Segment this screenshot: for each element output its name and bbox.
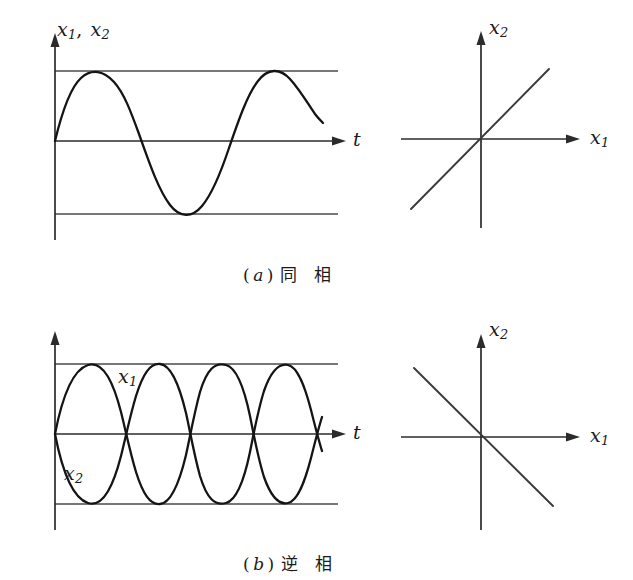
panel-b-caption-text: 逆 相: [281, 554, 338, 574]
panel-a-time-axis-arrow-icon: [332, 137, 346, 146]
panel-b-wave-label-x2-sub: 2: [75, 471, 83, 486]
panel-b-time-plot: [51, 331, 347, 530]
panel-a-lissajous-y-label-sub: 2: [500, 25, 508, 40]
panel-b-caption-paren-close: ): [268, 554, 275, 574]
panel-b-time-axis-label: t: [353, 423, 361, 442]
panel-b-wave-label-x1: x1: [118, 367, 137, 389]
panel-b-lissajous-horizontal-arrow-icon: [566, 433, 580, 442]
panel-a-lissajous-plot: [401, 31, 580, 228]
panel-b-wave-label-x1-base: x: [118, 365, 129, 387]
panel-a-y-axis-label-x1: x: [57, 18, 68, 40]
panel-a-lissajous-x-label: x1: [590, 128, 609, 150]
panel-a-waveform-x1-x2: [55, 71, 323, 215]
panel-b-lissajous-plot: [401, 334, 580, 530]
panel-b-wave-label-x1-sub: 1: [129, 374, 137, 389]
panel-b-wave-label-x2-base: x: [64, 462, 75, 484]
panel-b-lissajous-x-label-base: x: [590, 424, 601, 446]
panel-a-lissajous-x-label-base: x: [590, 126, 601, 148]
panel-a-lissajous-y-label: x2: [489, 18, 508, 40]
panel-a-y-axis-label: x1, x2: [57, 20, 110, 42]
panel-a-time-axis-label: t: [353, 130, 361, 149]
panel-b-lissajous-x-label-sub: 1: [601, 433, 609, 448]
panel-b-lissajous-y-label: x2: [489, 320, 508, 342]
panel-b-caption: (b)逆 相: [243, 550, 338, 575]
panel-a-caption-enum: a: [250, 265, 267, 285]
panel-b-time-axis-arrow-icon: [332, 430, 346, 439]
panel-a-lissajous-y-label-base: x: [489, 16, 500, 38]
panel-a-lissajous-x-label-sub: 1: [601, 135, 609, 150]
panel-b-wave-label-x2: x2: [64, 464, 83, 486]
panel-a-time-plot: [51, 33, 347, 240]
panel-b-vertical-axis-arrow-icon: [51, 331, 60, 345]
panel-a-y-axis-label-x2-sub: 2: [102, 27, 110, 42]
figure-root: x1, x2 t x2 x1 (a)同 相 x1 x2 t x2 x1 (b)逆…: [0, 0, 633, 580]
panel-a-y-axis-label-x2: x: [90, 18, 101, 40]
panel-a-caption: (a)同 相: [243, 261, 337, 286]
figure-canvas: [0, 0, 633, 580]
panel-b-lissajous-y-label-sub: 2: [500, 327, 508, 342]
panel-a-caption-paren-close: ): [267, 265, 274, 285]
panel-b-lissajous-x-label: x1: [590, 426, 609, 448]
panel-a-caption-text: 同 相: [280, 265, 337, 285]
panel-a-lissajous-vertical-arrow-icon: [477, 31, 486, 45]
panel-a-y-axis-label-comma: ,: [76, 18, 82, 40]
panel-b-lissajous-vertical-arrow-icon: [477, 334, 486, 348]
panel-b-lissajous-y-label-base: x: [489, 318, 500, 340]
panel-a-lissajous-horizontal-arrow-icon: [566, 135, 580, 144]
panel-b-caption-enum: b: [250, 554, 267, 574]
